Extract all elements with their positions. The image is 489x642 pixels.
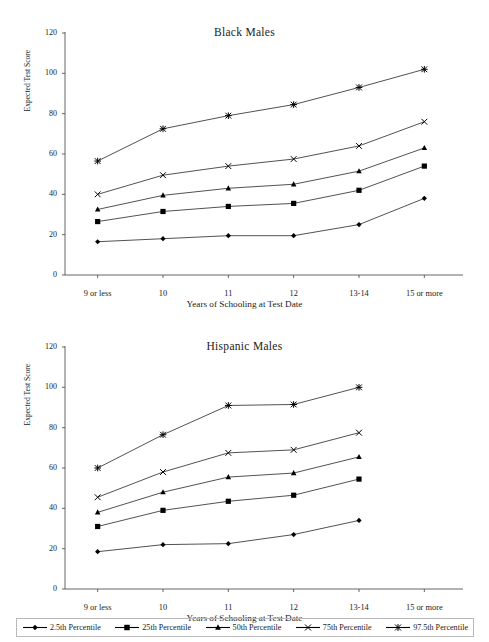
y-axis-tick-labels: 020406080100120 [33, 30, 57, 285]
chart-panel-hispanic-males: Hispanic Males Expected Test Score 02040… [0, 322, 489, 632]
y-axis-tick: 60 [35, 149, 57, 158]
x-axis-tick: 13-14 [349, 289, 369, 298]
y-axis-label: Expected Test Score [23, 412, 32, 426]
y-axis-tick: 40 [35, 503, 57, 512]
y-axis-tick: 20 [35, 230, 57, 239]
diamond-marker [22, 622, 48, 633]
x-axis-tick: 11 [224, 603, 232, 612]
chart-panel-black-males: Black Males Expected Test Score 02040608… [0, 8, 489, 318]
y-axis-tick: 60 [35, 463, 57, 472]
y-axis-label: Expected Test Score [23, 98, 32, 112]
x-axis-tick: 13-14 [349, 603, 369, 612]
x-axis-label: Years of Schooling at Test Date [0, 299, 489, 309]
x-axis-tick: 10 [159, 603, 167, 612]
y-axis-tick: 120 [35, 342, 57, 351]
y-axis-tick: 80 [35, 109, 57, 118]
legend-label: 75th Percentile [323, 623, 372, 632]
y-axis-tick: 80 [35, 423, 57, 432]
y-axis-tick: 100 [35, 68, 57, 77]
y-axis-tick: 100 [35, 382, 57, 391]
y-axis-tick: 0 [35, 270, 57, 279]
chart-legend: 2.5th Percentile25th Percentile50th Perc… [16, 618, 474, 637]
legend-label: 50th Percentile [233, 623, 282, 632]
legend-item: 2.5th Percentile [22, 622, 101, 633]
x-axis-tick: 15 or more [406, 603, 443, 612]
legend-item: 75th Percentile [295, 622, 372, 633]
legend-item: 50th Percentile [205, 622, 282, 633]
x-axis-tick: 11 [224, 289, 232, 298]
y-axis-tick: 0 [35, 584, 57, 593]
figure-page: Black Males Expected Test Score 02040608… [0, 0, 489, 642]
triangle-marker [205, 622, 231, 633]
x-axis-tick: 12 [289, 289, 297, 298]
x-axis-tick: 12 [289, 603, 297, 612]
star-marker [385, 622, 411, 633]
square-marker [114, 622, 140, 633]
x-axis-tick: 15 or more [406, 289, 443, 298]
legend-item: 25th Percentile [114, 622, 191, 633]
plot-area [60, 30, 465, 285]
x-axis-tick: 9 or less [84, 603, 112, 612]
legend-label: 97.5th Percentile [413, 623, 468, 632]
y-axis-tick: 120 [35, 28, 57, 37]
plot-area [60, 344, 465, 599]
y-axis-tick-labels: 020406080100120 [33, 344, 57, 599]
legend-item: 97.5th Percentile [385, 622, 468, 633]
y-axis-tick: 20 [35, 544, 57, 553]
y-axis-tick: 40 [35, 189, 57, 198]
x-marker [295, 622, 321, 633]
legend-label: 2.5th Percentile [50, 623, 101, 632]
x-axis-tick: 9 or less [84, 289, 112, 298]
x-axis-tick: 10 [159, 289, 167, 298]
legend-label: 25th Percentile [142, 623, 191, 632]
